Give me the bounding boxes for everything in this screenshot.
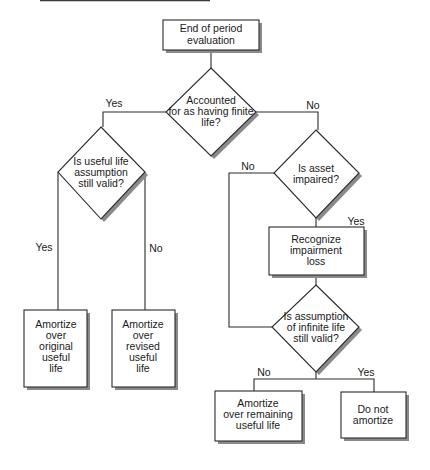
edge-label-finite-yes: Yes [105, 97, 122, 109]
edge-label-impaired-yes: Yes [347, 215, 364, 227]
node-text: amortize [353, 414, 393, 426]
node-amortize-revised: Amortize over revised useful life [112, 310, 178, 390]
decision-asset-impaired: Is asset impaired? [274, 130, 362, 221]
edge-infinite-branch [254, 379, 374, 392]
node-amortize-remaining: Amortize over remaining useful life [215, 391, 305, 444]
flowchart-canvas: End of period evaluation Accounted for a… [0, 0, 430, 470]
node-text: useful life [236, 419, 281, 431]
edge-label-infinite-no: No [257, 366, 271, 378]
edge-label-useful-no: No [149, 242, 163, 254]
node-text: life [49, 362, 63, 374]
edge-label-impaired-no: No [241, 160, 255, 172]
node-recognize-impairment-loss: Recognize impairment loss [269, 227, 367, 278]
node-text: life? [201, 116, 220, 128]
node-amortize-original: Amortize over original useful life [24, 310, 90, 390]
decision-finite-life: Accounted for as having finite life? [166, 68, 259, 159]
edge-label-infinite-yes: Yes [357, 366, 374, 378]
node-text: evaluation [187, 34, 235, 46]
node-text: life [136, 362, 150, 374]
node-text: impaired? [293, 173, 339, 185]
edge-finite-yes [103, 112, 166, 127]
edge-finite-no [256, 112, 318, 130]
edge-impaired-no [229, 173, 274, 327]
node-end-of-period-evaluation: End of period evaluation [163, 20, 262, 53]
node-text: still valid? [78, 177, 124, 189]
node-text: End of period [180, 22, 243, 34]
node-text: loss [307, 255, 326, 267]
node-text: still valid? [293, 332, 339, 344]
edge-label-finite-no: No [306, 99, 320, 111]
decision-infinite-life-valid: Is assumption of infinite life still val… [272, 285, 362, 375]
edge-label-useful-yes: Yes [35, 241, 52, 253]
decision-useful-life-valid: Is useful life assumption still valid? [58, 127, 148, 222]
node-do-not-amortize: Do not amortize [341, 392, 409, 441]
